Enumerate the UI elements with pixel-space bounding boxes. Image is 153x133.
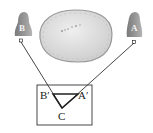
object-a: A (127, 12, 143, 44)
object-b-marker (20, 39, 23, 42)
object-b: B (15, 12, 32, 42)
triangle-bac (53, 94, 78, 108)
lake (40, 10, 112, 62)
diagram-canvas: B A B′ A′ C (0, 0, 153, 133)
object-b-label: B (19, 23, 25, 33)
object-a-label: A (131, 23, 138, 33)
point-c-label: C (58, 110, 65, 122)
point-a-prime-label: A′ (78, 89, 88, 101)
point-b-prime-label: B′ (40, 89, 50, 101)
